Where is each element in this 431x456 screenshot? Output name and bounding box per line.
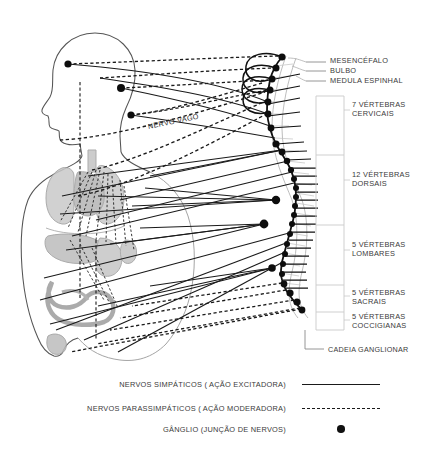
- legend-label-parassimpaticos: NERVOS PARASSIMPÁTICOS ( AÇÃO MODERADORA…: [0, 404, 286, 413]
- legend-row-simpaticos: NERVOS SIMPÁTICOS ( AÇÃO EXCITADORA): [0, 375, 431, 393]
- legend-row-parassimpaticos: NERVOS PARASSIMPÁTICOS ( AÇÃO MODERADORA…: [0, 399, 431, 417]
- legend-sample-dot: [302, 425, 422, 433]
- vertebra-brackets: [316, 96, 344, 330]
- legend-row-ganglio: GÂNGLIO (JUNÇÃO DE NERVOS): [0, 420, 431, 438]
- legend-sample-solid-line: [302, 384, 422, 385]
- label-medula-espinhal: MEDULA ESPINHAL: [330, 76, 403, 86]
- label-vertebras-lombares: 5 VÉRTEBRAS LOMBARES: [352, 240, 406, 259]
- solid-line-icon: [302, 384, 380, 385]
- label-vertebras-sacrais: 5 VÉRTEBRAS SACRAIS: [352, 288, 406, 307]
- label-bulbo: BULBO: [330, 66, 356, 76]
- legend-label-ganglio: GÂNGLIO (JUNÇÃO DE NERVOS): [0, 425, 286, 434]
- legend-label-simpaticos: NERVOS SIMPÁTICOS ( AÇÃO EXCITADORA): [0, 380, 286, 389]
- label-vertebras-dorsais: 12 VÉRTEBRAS DORSAIS: [352, 170, 410, 189]
- label-mesencefalo: MESENCÉFALO: [330, 56, 388, 66]
- dashed-line-icon: [302, 408, 380, 409]
- label-cadeia-ganglionar: CADEIA GANGLIONAR: [328, 345, 409, 354]
- internal-organs: [45, 150, 137, 354]
- chain-label-leader: [305, 330, 324, 349]
- legend: NERVOS SIMPÁTICOS ( AÇÃO EXCITADORA) NER…: [0, 366, 431, 456]
- top-label-leaders: [306, 62, 326, 81]
- legend-sample-dashed-line: [302, 408, 422, 409]
- ganglion-dot-icon: [337, 425, 345, 433]
- label-vertebras-coccigianas: 5 VÉRTEBRAS COCCIGIANAS: [352, 312, 407, 331]
- segment-label-connectors: [344, 110, 350, 320]
- label-vertebras-cervicais: 7 VÉRTEBRAS CERVICAIS: [352, 100, 406, 119]
- top-label-connectors: [288, 58, 306, 81]
